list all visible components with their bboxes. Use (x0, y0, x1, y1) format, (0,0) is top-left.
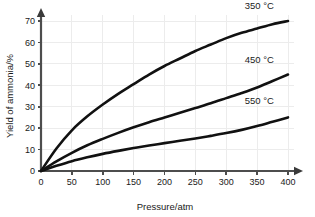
x-tick-label: 250 (188, 177, 203, 187)
x-tick-label: 50 (67, 177, 77, 187)
series-label-350: 350 °C (245, 0, 274, 11)
y-tick-label: 20 (25, 123, 35, 133)
x-axis-title: Pressure/atm (137, 201, 194, 212)
y-tick-label: 70 (25, 16, 35, 26)
series-label-550: 550 °C (245, 95, 274, 106)
y-tick-label: 60 (25, 38, 35, 48)
chart-container: 010203040506070 050100150200250300350400… (0, 0, 315, 217)
y-tick-label: 50 (25, 59, 35, 69)
ammonia-yield-line-chart: 010203040506070 050100150200250300350400… (0, 0, 315, 217)
series-label-450: 450 °C (245, 54, 274, 65)
y-tick-label: 10 (25, 145, 35, 155)
y-axis-title: Yield of ammonia/% (4, 53, 15, 138)
x-tick-label: 300 (219, 177, 234, 187)
x-tick-label: 200 (157, 177, 172, 187)
x-tick-label: 150 (126, 177, 141, 187)
x-tick-label: 350 (250, 177, 265, 187)
y-tick-label: 30 (25, 102, 35, 112)
x-tick-label: 100 (95, 177, 110, 187)
y-tick-label: 0 (30, 166, 35, 176)
y-tick-label: 40 (25, 81, 35, 91)
x-tick-label: 0 (38, 177, 43, 187)
x-tick-label: 400 (280, 177, 295, 187)
